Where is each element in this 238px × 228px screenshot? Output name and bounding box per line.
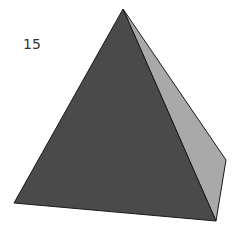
pyramid-diagram xyxy=(0,0,238,228)
